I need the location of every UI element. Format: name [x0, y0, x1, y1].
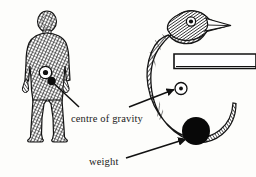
human-cog-marker: [39, 66, 51, 78]
human-head: [38, 11, 57, 32]
figure-canvas: centre of gravity weight: [0, 0, 256, 177]
bird-cog-marker: [175, 83, 187, 95]
label-centre-of-gravity: centre of gravity: [71, 113, 144, 124]
centre-of-gravity-figure: centre of gravity weight: [0, 0, 256, 177]
weight-ball: [182, 117, 210, 145]
label-weight: weight: [89, 156, 118, 167]
perch-bar: [174, 54, 256, 69]
